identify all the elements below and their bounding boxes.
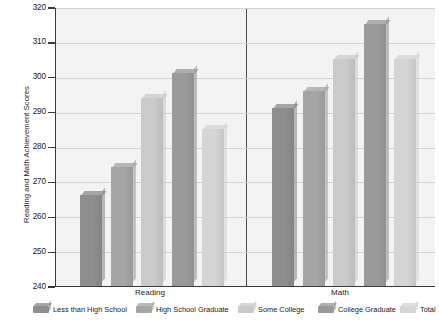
- y-axis-tick-label: 300: [4, 72, 46, 81]
- legend-item[interactable]: Some College: [238, 305, 304, 314]
- legend-swatch: [318, 306, 334, 314]
- bar-chart: Reading and Math Achievement Scores 2402…: [0, 0, 439, 325]
- y-axis-tick-label: 270: [4, 177, 46, 186]
- y-axis-tick-label: 280: [4, 142, 46, 151]
- legend-label: College Graduate: [338, 305, 396, 314]
- legend-swatch-side: [416, 300, 418, 311]
- chart-legend: Less than High SchoolHigh School Graduat…: [0, 305, 439, 325]
- legend-swatch-side: [152, 300, 154, 311]
- legend-swatch-side: [254, 300, 256, 311]
- bar-side-face: [133, 159, 136, 282]
- y-axis-tick: [48, 42, 55, 43]
- legend-item[interactable]: College Graduate: [318, 305, 396, 314]
- bar-face: [172, 73, 194, 286]
- bar: [172, 73, 194, 286]
- legend-label: High School Graduate: [156, 305, 229, 314]
- y-axis-tick-label: 250: [4, 247, 46, 256]
- y-axis-tick-label: 290: [4, 107, 46, 116]
- bar-side-face: [325, 82, 328, 281]
- legend-swatch-side: [49, 300, 51, 311]
- y-axis-tick: [48, 147, 55, 148]
- legend-swatch: [238, 306, 254, 314]
- bar-side-face: [355, 51, 358, 282]
- y-axis-tick: [48, 286, 55, 287]
- bar-side-face: [386, 16, 389, 282]
- legend-item[interactable]: Total: [400, 305, 436, 314]
- bar-face: [364, 24, 386, 286]
- bar-face: [333, 59, 355, 286]
- y-axis-tick: [48, 112, 55, 113]
- bar-side-face: [194, 65, 197, 282]
- bar-face: [80, 195, 102, 286]
- bar: [141, 98, 163, 286]
- bar: [333, 59, 355, 286]
- legend-swatch-side: [334, 300, 336, 311]
- bar: [364, 24, 386, 286]
- y-axis-tick-label: 260: [4, 212, 46, 221]
- legend-item[interactable]: High School Graduate: [136, 305, 229, 314]
- gridline: [56, 8, 435, 9]
- group-label-reading: Reading: [55, 288, 245, 297]
- group-labels: ReadingMath: [55, 288, 435, 302]
- group-label-math: Math: [245, 288, 435, 297]
- y-axis-tick: [48, 217, 55, 218]
- y-axis-tick: [48, 182, 55, 183]
- legend-swatch: [400, 306, 416, 314]
- bar-side-face: [163, 89, 166, 281]
- bar-face: [394, 59, 416, 286]
- bar-side-face: [224, 121, 227, 282]
- bar: [272, 108, 294, 286]
- bar-face: [303, 91, 325, 286]
- bar-face: [111, 167, 133, 286]
- bar-face: [141, 98, 163, 286]
- legend-label: Some College: [258, 305, 304, 314]
- bar-side-face: [102, 187, 105, 282]
- legend-label: Less than High School: [53, 305, 127, 314]
- bar-face: [272, 108, 294, 286]
- y-axis-tick: [48, 252, 55, 253]
- bar-face: [202, 129, 224, 286]
- plot-area: [55, 8, 435, 287]
- legend-swatch: [33, 306, 49, 314]
- legend-swatch: [136, 306, 152, 314]
- bar: [111, 167, 133, 286]
- bar-side-face: [294, 100, 297, 282]
- bar: [303, 91, 325, 286]
- y-axis-tick-label: 310: [4, 37, 46, 46]
- legend-item[interactable]: Less than High School: [33, 305, 127, 314]
- legend-label: Total: [420, 305, 436, 314]
- bar: [80, 195, 102, 286]
- bar-side-face: [416, 51, 419, 282]
- y-axis-tick-label: 240: [4, 282, 46, 291]
- y-axis-tick: [48, 77, 55, 78]
- bar: [394, 59, 416, 286]
- y-axis-tick: [48, 7, 55, 8]
- bar: [202, 129, 224, 286]
- y-axis-tick-label: 320: [4, 3, 46, 12]
